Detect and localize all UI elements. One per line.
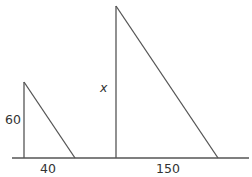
large-triangle-hypotenuse bbox=[116, 6, 218, 158]
similar-triangles-diagram: 60 40 x 150 bbox=[0, 0, 252, 177]
small-triangle-hypotenuse bbox=[24, 82, 75, 158]
large-triangle: x 150 bbox=[99, 6, 218, 176]
small-triangle-height-label: 60 bbox=[5, 112, 21, 127]
small-triangle-base-label: 40 bbox=[40, 161, 56, 176]
large-triangle-height-label: x bbox=[99, 80, 108, 95]
small-triangle: 60 40 bbox=[5, 82, 75, 176]
large-triangle-base-label: 150 bbox=[156, 161, 180, 176]
